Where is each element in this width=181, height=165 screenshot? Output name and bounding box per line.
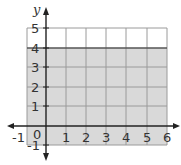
coordinate-plane: y 5 4 3 2 1 -1 0 -1 1 2 3 4 5 6 [0,0,181,165]
y-axis-arrow-down-icon [43,153,49,161]
origin-label: 0 [33,127,41,142]
x-axis-arrow-right-icon [173,123,180,129]
y-axis-arrow-up-icon [43,7,49,15]
x-tick-minus-1: -1 [12,130,25,145]
y-tick-1: 1 [31,99,39,114]
x-axis-arrow-left-icon [7,123,14,129]
y-axis-label: y [32,2,41,17]
y-tick-2: 2 [31,80,39,95]
y-tick-4: 4 [31,41,39,56]
x-tick-6: 6 [163,130,171,145]
x-tick-5: 5 [143,130,151,145]
x-tick-4: 4 [122,130,130,145]
y-tick-3: 3 [31,60,39,75]
x-tick-2: 2 [82,130,90,145]
x-tick-1: 1 [62,130,70,145]
x-tick-3: 3 [102,130,110,145]
y-tick-5: 5 [31,21,39,36]
